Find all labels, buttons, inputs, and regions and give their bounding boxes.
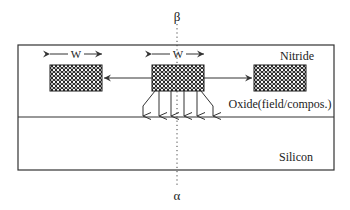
right-block [254, 65, 306, 91]
alpha-label: α [174, 188, 181, 203]
oxide-label: Oxide(field/compos.) [229, 97, 332, 111]
down-arrow-6 [201, 91, 213, 116]
down-arrow-1 [143, 91, 155, 116]
downward-arrows [143, 91, 213, 116]
center-block [152, 65, 204, 91]
left-block [50, 65, 102, 91]
silicon-label: Silicon [279, 150, 313, 164]
beta-label: β [174, 9, 181, 24]
diffusion-diagram: β α W W Nitride Oxide(field/compos.) Sil… [0, 0, 350, 210]
nitride-label: Nitride [280, 49, 314, 63]
width-label-center: W [173, 48, 184, 60]
width-dimension-left: W [50, 48, 102, 60]
width-label-left: W [71, 48, 82, 60]
width-dimension-center: W [152, 48, 204, 60]
